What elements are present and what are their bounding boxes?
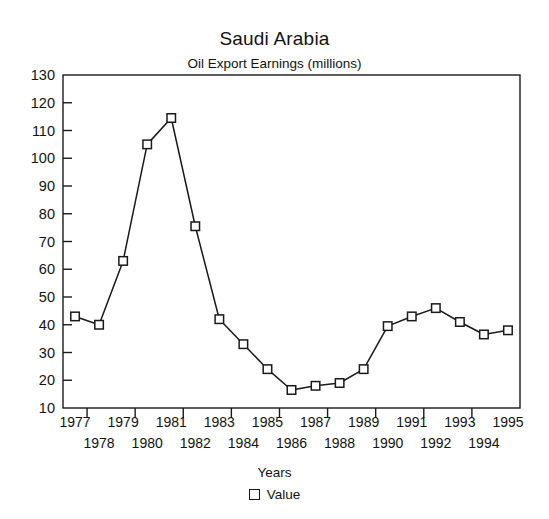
x-tick-label: 1988 [324,435,355,451]
data-point-marker [167,114,176,123]
legend-marker-icon [249,489,260,500]
x-tick-label: 1987 [300,414,331,430]
x-tick-label: 1993 [444,414,475,430]
x-tick-labels-odd-years: 1977197919811983198519871989199119931995 [59,414,523,430]
data-point-marker [95,321,104,330]
data-point-marker [287,386,296,395]
y-tick-label: 90 [39,178,55,194]
x-tick-label: 1978 [84,435,115,451]
data-point-marker [408,312,417,321]
data-point-marker [143,140,152,149]
y-tick-label: 80 [39,206,55,222]
x-tick-label: 1985 [252,414,283,430]
data-point-marker [239,340,248,349]
y-tick-labels: 130120110100908070605040302010 [31,67,55,416]
data-point-marker [335,379,344,388]
data-line-value [75,118,508,390]
x-axis-label: Years [0,465,549,480]
y-tick-label: 30 [39,345,55,361]
x-tick-label: 1981 [156,414,187,430]
y-tick-label: 20 [39,372,55,388]
data-point-marker [119,257,128,266]
y-tick-label: 110 [32,123,55,139]
plot-frame [63,75,520,408]
plot-area-svg: 130120110100908070605040302010 197719791… [0,0,549,519]
plot-frame-rect [63,75,520,408]
x-tick-label: 1983 [204,414,235,430]
x-tick-label: 1977 [59,414,90,430]
x-tick-label: 1990 [372,435,403,451]
data-point-marker [71,312,80,321]
y-tick-label: 130 [31,67,55,83]
data-point-marker [359,365,368,374]
x-tick-label: 1986 [276,435,307,451]
data-point-marker [263,365,272,374]
legend-entry-label: Value [267,487,301,502]
x-tick-label: 1992 [420,435,451,451]
series-polyline [75,118,508,390]
x-tick-label: 1982 [180,435,211,451]
data-point-marker [191,222,200,231]
y-tick-label: 100 [31,150,55,166]
y-tick-label: 120 [31,95,55,111]
data-point-marker [215,315,224,324]
x-tick-label: 1980 [132,435,163,451]
data-point-marker [432,304,441,313]
y-tick-label: 50 [39,289,55,305]
chart-container: Saudi Arabia Oil Export Earnings (millio… [0,0,549,519]
data-point-marker [504,326,512,335]
data-markers-value [71,114,512,394]
x-tick-label: 1991 [396,414,427,430]
data-point-marker [383,322,392,331]
data-point-marker [480,330,489,339]
x-tick-label: 1984 [228,435,259,451]
x-tick-label: 1994 [468,435,499,451]
y-tick-label: 60 [39,261,55,277]
x-tick-label: 1995 [492,414,523,430]
x-tick-labels-even-years: 197819801982198419861988199019921994 [84,435,500,451]
x-tick-label: 1979 [108,414,139,430]
y-tick-label: 70 [39,234,55,250]
data-point-marker [456,318,465,327]
y-tick-label: 10 [39,400,55,416]
y-tick-marks [63,103,72,381]
chart-legend: Value [0,487,549,503]
x-tick-label: 1989 [348,414,379,430]
data-point-marker [311,382,320,391]
y-tick-label: 40 [39,317,55,333]
